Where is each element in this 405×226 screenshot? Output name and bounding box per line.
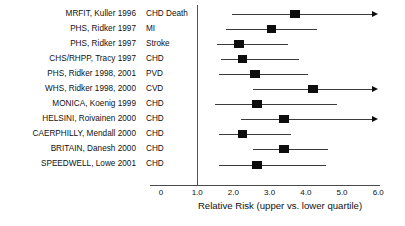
point-estimate-marker [252, 100, 262, 108]
study-label: HELSINI, Roivainen 2000 [42, 115, 136, 123]
x-axis-tick-label: 5.0 [322, 189, 362, 197]
study-label: MRFIT, Kuller 1996 [66, 10, 136, 18]
study-label: CHS/RHPP, Tracy 1997 [49, 55, 136, 63]
study-label: SPEEDWELL, Lowe 2001 [41, 160, 136, 168]
study-label: PHS, Ridker 1998, 2001 [47, 70, 136, 78]
endpoint-label: Stroke [146, 40, 170, 48]
study-label: PHS, Ridker 1997 [70, 25, 136, 33]
ci-arrow-right-icon [372, 86, 378, 92]
confidence-interval-line [219, 74, 308, 75]
study-label: CAERPHILLY, Mendall 2000 [33, 130, 137, 138]
x-axis-tick [197, 181, 198, 185]
confidence-interval-line [217, 44, 288, 45]
point-estimate-marker [238, 55, 248, 63]
x-axis-tick-label: 1.0 [177, 189, 217, 197]
endpoint-label: CHD [146, 160, 164, 168]
x-axis-tick-label: 4.0 [286, 189, 326, 197]
confidence-interval-line [221, 59, 299, 60]
point-estimate-marker [290, 10, 300, 18]
study-label: PHS, Ridker 1997 [70, 40, 136, 48]
endpoint-label: CHD [146, 130, 164, 138]
confidence-interval-line [232, 14, 372, 15]
study-label: MONICA, Koenig 1999 [52, 100, 136, 108]
confidence-interval-line [253, 149, 327, 150]
x-axis-title: Relative Risk (upper vs. lower quartile) [160, 201, 400, 211]
confidence-interval-line [241, 119, 372, 120]
ci-arrow-right-icon [372, 11, 378, 17]
point-estimate-marker [267, 25, 277, 33]
endpoint-label: CHD [146, 100, 164, 108]
x-axis-tick-label: 3.0 [250, 189, 290, 197]
forest-row-2 [0, 22, 405, 36]
point-estimate-marker [308, 85, 318, 93]
ci-arrow-right-icon [372, 116, 378, 122]
forest-plot-figure: MRFIT, Kuller 1996CHD DeathPHS, Ridker 1… [0, 0, 405, 226]
endpoint-label: CVD [146, 85, 163, 93]
x-axis-tick-label: 6.0 [358, 189, 398, 197]
forest-row-3 [0, 37, 405, 51]
point-estimate-marker [252, 161, 262, 169]
point-estimate-marker [238, 130, 248, 138]
endpoint-label: PVD [146, 70, 163, 78]
point-estimate-marker [279, 145, 289, 153]
x-axis-tick-label: 2.0 [213, 189, 253, 197]
confidence-interval-line [215, 104, 336, 105]
study-label: WHS, Ridker 1998, 2000 [45, 85, 136, 93]
endpoint-label: CHD [146, 115, 164, 123]
x-axis-line [150, 185, 380, 186]
point-estimate-marker [279, 115, 289, 123]
x-axis-tick-label: 0 [141, 189, 181, 197]
confidence-interval-line [219, 134, 291, 135]
study-label: BRITAIN, Danesh 2000 [51, 145, 136, 153]
endpoint-label: CHD Death [146, 10, 188, 18]
reference-line-rr-1 [197, 5, 198, 185]
endpoint-label: CHD [146, 55, 164, 63]
endpoint-label: CHD [146, 145, 164, 153]
endpoint-label: MI [146, 25, 155, 33]
point-estimate-marker [250, 70, 260, 78]
point-estimate-marker [234, 40, 244, 48]
confidence-interval-line [219, 165, 326, 166]
